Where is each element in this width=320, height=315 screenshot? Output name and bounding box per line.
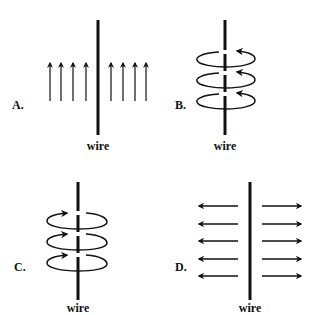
panel-c [47,182,107,300]
panel-label-d: D. [175,261,187,273]
panel-label-b: B. [175,99,186,111]
wire-label-c: wire [67,302,89,314]
wire-label-d: wire [239,302,261,314]
panel-label-a: A. [12,99,24,111]
panel-label-c: C. [14,261,26,273]
wire-label-b: wire [214,140,236,152]
panel-b [197,20,255,135]
panel-d [199,182,301,300]
wire-label-a: wire [87,140,109,152]
panel-a [50,20,146,135]
